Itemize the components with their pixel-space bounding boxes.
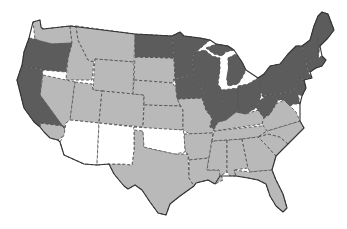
state-wy [93, 59, 134, 94]
state-ks [143, 105, 183, 130]
us-map [0, 0, 347, 229]
us-map-svg [0, 0, 347, 229]
state-ar [184, 133, 213, 160]
lake-michigan [220, 56, 228, 86]
state-co [99, 91, 144, 127]
state-nm [97, 123, 134, 165]
state-az [60, 120, 99, 165]
state-sd [134, 57, 175, 83]
state-fl [234, 170, 287, 212]
state-nd [135, 34, 174, 58]
